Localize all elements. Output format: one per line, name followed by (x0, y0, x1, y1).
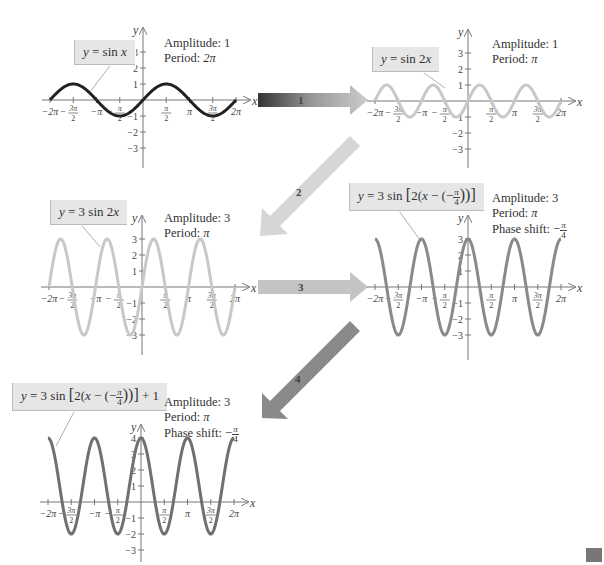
y-axis-label: y (131, 211, 138, 225)
x-axis-label: x (576, 95, 583, 109)
svg-text:π: π (489, 291, 494, 300)
svg-text:2: 2 (116, 516, 120, 525)
svg-text:π: π (443, 291, 448, 300)
info-graph-4: Amplitude: 3 Period: π Phase shift: −π4 (492, 191, 567, 240)
x-tick-label: −π (89, 508, 102, 519)
leader-line (90, 63, 112, 92)
svg-text:π: π (118, 104, 123, 113)
transform-arrow-2: 2 (260, 136, 360, 236)
svg-text:2: 2 (162, 516, 166, 525)
y-tick-label: 4 (131, 433, 136, 444)
x-tick-label: π (185, 508, 191, 519)
x-tick-label: − (59, 293, 65, 304)
x-tick-label: −π (90, 293, 103, 304)
y-tick-label: 2 (458, 64, 463, 75)
equation-box-2: y = sin 2x (372, 47, 439, 72)
svg-text:π: π (162, 506, 167, 515)
step-label-2: 2 (296, 186, 302, 198)
y-tick-label: −3 (125, 545, 136, 556)
svg-text:2: 2 (396, 301, 400, 310)
x-tick-label: −2π (367, 293, 385, 304)
y-tick-label: −2 (125, 529, 136, 540)
info-graph-5: Amplitude: 3 Period: π Phase shift: −π4 (164, 395, 239, 444)
svg-text:2: 2 (69, 516, 73, 525)
step-label-3: 3 (298, 281, 304, 293)
y-axis-label: y (130, 420, 137, 434)
svg-text:2: 2 (209, 516, 213, 525)
y-tick-label: −2 (452, 314, 463, 325)
y-tick-label: 1 (133, 79, 138, 90)
transform-arrow-1: 1 (258, 85, 368, 115)
svg-text:2: 2 (536, 115, 540, 124)
y-axis-label: y (132, 23, 139, 37)
y-tick-label: −3 (452, 144, 463, 155)
svg-text:3π: 3π (393, 291, 403, 300)
y-tick-label: −2 (127, 127, 138, 138)
y-tick-label: 2 (132, 250, 137, 261)
equation-box-3: y = 3 sin 2x (50, 200, 127, 225)
y-tick-label: 1 (132, 266, 137, 277)
svg-text:3π: 3π (206, 506, 216, 515)
y-tick-label: −3 (452, 330, 463, 341)
x-tick-label: 2π (556, 293, 567, 304)
svg-text:π: π (116, 506, 121, 515)
equation-box-4: y = 3 sin [2(x − (−π4))] (349, 183, 484, 211)
step-label-1: 1 (298, 94, 304, 106)
y-tick-label: −1 (126, 298, 137, 309)
y-axis-label: y (457, 25, 464, 39)
x-axis-label: x (251, 94, 258, 108)
x-tick-label: − (432, 107, 438, 118)
equation-box-1: y = sin x (74, 40, 135, 65)
info-graph-1: Amplitude: 1 Period: 2π (164, 36, 230, 66)
svg-text:π: π (164, 104, 169, 113)
y-tick-label: −2 (452, 128, 463, 139)
svg-text:3π: 3π (208, 104, 218, 113)
transform-arrow-3: 3 (258, 272, 368, 302)
leader-line (56, 412, 74, 446)
x-tick-label: − (60, 106, 66, 117)
x-tick-label: −π (91, 106, 104, 117)
svg-text:2: 2 (489, 301, 493, 310)
svg-text:2: 2 (443, 301, 447, 310)
svg-text:3π: 3π (66, 506, 76, 515)
svg-text:3π: 3π (68, 104, 78, 113)
leader-line (399, 211, 420, 240)
x-axis-label: x (249, 496, 256, 510)
svg-text:3π: 3π (533, 291, 543, 300)
x-tick-label: −2π (41, 293, 59, 304)
y-axis-label: y (457, 211, 464, 225)
info-graph-2: Amplitude: 1 Period: π (492, 37, 558, 67)
step-label-4: 4 (295, 373, 301, 385)
x-tick-label: 2π (229, 508, 240, 519)
svg-text:2: 2 (536, 301, 540, 310)
y-tick-label: 1 (458, 80, 463, 91)
x-tick-label: π (512, 293, 518, 304)
x-axis-label: x (576, 281, 583, 295)
x-tick-label: π (187, 106, 193, 117)
diagram-canvas: 1 2 3 4 xy−2π−3π2−π−π2π2π3π22π321−1−2−3x… (0, 0, 604, 565)
y-tick-label: −3 (127, 143, 138, 154)
y-tick-label: −1 (125, 513, 136, 524)
svg-text:2: 2 (71, 114, 75, 123)
x-axis-label: x (250, 281, 257, 295)
svg-text:2: 2 (443, 115, 447, 124)
page-marker (586, 548, 602, 562)
transform-arrow-4: 4 (262, 321, 360, 419)
svg-text:2: 2 (489, 115, 493, 124)
x-tick-label: 2π (231, 106, 242, 117)
y-tick-label: 3 (132, 234, 137, 245)
y-tick-label: 3 (458, 234, 463, 245)
x-tick-label: − (385, 107, 391, 118)
y-tick-label: 3 (458, 48, 463, 59)
x-tick-label: −2π (42, 106, 60, 117)
equation-box-5: y = 3 sin [2(x − (−π4))] + 1 (12, 383, 167, 411)
info-graph-3: Amplitude: 3 Period: π (164, 211, 230, 241)
svg-text:2: 2 (164, 114, 168, 123)
x-tick-label: −2π (40, 508, 58, 519)
x-tick-label: π (512, 107, 518, 118)
x-tick-label: − (106, 293, 112, 304)
y-tick-label: 1 (131, 481, 136, 492)
svg-text:2: 2 (396, 115, 400, 124)
x-tick-label: −π (416, 293, 429, 304)
x-tick-label: −2π (367, 107, 385, 118)
